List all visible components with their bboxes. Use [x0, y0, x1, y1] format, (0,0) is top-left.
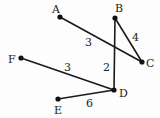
graph-svg: 34236ABCDEF — [0, 0, 160, 118]
edge-weight-BC: 4 — [132, 31, 139, 44]
node-label-A: A — [51, 3, 61, 16]
edge-BD — [114, 18, 115, 90]
node-label-D: D — [119, 87, 128, 100]
node-label-B: B — [115, 2, 123, 15]
node-B — [112, 15, 117, 20]
node-C — [139, 59, 144, 64]
edge-weight-ED: 6 — [86, 97, 93, 110]
edge-weight-FD: 3 — [64, 61, 71, 74]
node-D — [111, 87, 116, 92]
node-F — [18, 55, 23, 60]
graph-diagram: 34236ABCDEF — [0, 0, 160, 118]
node-label-E: E — [54, 104, 62, 117]
edge-weight-AC: 3 — [85, 36, 92, 49]
node-E — [55, 96, 60, 101]
edge-AC — [60, 17, 142, 62]
node-label-C: C — [146, 57, 154, 70]
node-label-F: F — [8, 53, 16, 66]
edge-weight-BD: 2 — [103, 61, 110, 74]
